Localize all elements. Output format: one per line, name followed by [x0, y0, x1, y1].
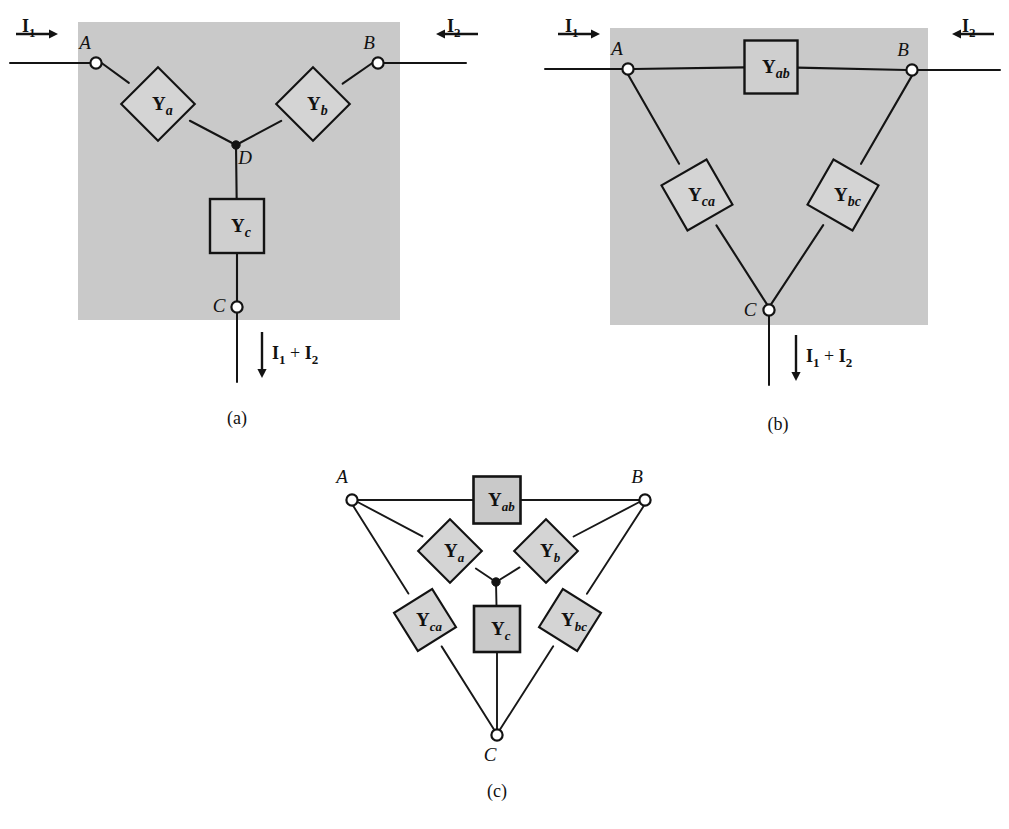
panel-caption-c: (c): [487, 781, 507, 802]
component-subscript: b: [554, 550, 561, 565]
current-arrow-i2-head: [436, 29, 445, 38]
component-subscript: ca: [702, 194, 715, 209]
current-arrow-i2-head: [952, 29, 961, 38]
branch-ad-c-seg1: [358, 502, 423, 536]
current-arrow-i1-plus-i2-head: [257, 369, 266, 378]
component-subscript: ab: [776, 66, 790, 81]
node-label-a: A: [77, 32, 91, 53]
node-label-c: C: [213, 295, 226, 316]
current-subscript: 1: [29, 25, 36, 40]
branch-bd-c-seg1: [574, 502, 640, 537]
component-subscript: c: [505, 628, 511, 643]
component-subscript: ab: [502, 499, 516, 514]
branch-ca-c-seg1: [353, 506, 408, 594]
current-label-i1-plus-i2: I1 + I2: [272, 343, 318, 367]
current-label-i2: I2: [447, 16, 461, 40]
current-arrow-i1-plus-i2-head: [791, 372, 800, 381]
component-subscript: c: [245, 225, 252, 240]
plus-sign: +: [286, 343, 305, 363]
component-subscript: ca: [430, 619, 443, 634]
terminal-node-b[interactable]: [372, 57, 383, 68]
node-label-c: C: [484, 744, 497, 765]
terminal-node-c[interactable]: [231, 301, 242, 312]
branch-dc-seg1: [236, 145, 237, 199]
terminal-node-b[interactable]: [639, 494, 650, 505]
terminal-node-a[interactable]: [346, 494, 357, 505]
current-symbol-2: I: [305, 343, 312, 363]
component-subscript: bc: [575, 619, 588, 634]
panel-caption-a: (a): [227, 408, 247, 429]
current-arrow-i1-head: [49, 29, 58, 38]
component-subscript: a: [458, 550, 465, 565]
terminal-node-b[interactable]: [906, 64, 917, 75]
current-label-i1: I1: [565, 16, 579, 40]
current-symbol-2: I: [839, 346, 846, 366]
panel-background-a: [78, 22, 400, 320]
current-subscript: 1: [572, 25, 579, 40]
panel-b: YabYcaYbcABCI1I2I1 + I2(b): [545, 16, 1000, 435]
current-subscript: 2: [454, 25, 461, 40]
node-label-b: B: [363, 32, 375, 53]
terminal-node-a[interactable]: [622, 63, 633, 74]
node-label-a: A: [609, 38, 623, 59]
current-subscript: 2: [969, 25, 976, 40]
current-arrow-i1-head: [591, 29, 600, 38]
current-subscript-2: 2: [846, 355, 853, 370]
node-label-d: D: [237, 147, 252, 168]
figure-root: YaYbYcABCDI1I2I1 + I2(a)YabYcaYbcABCI1I2…: [0, 0, 1009, 829]
node-label-a: A: [334, 466, 348, 487]
terminal-node-a[interactable]: [90, 57, 101, 68]
components-c: YabYaYbYcaYcYbc: [394, 477, 601, 653]
panel-c: YabYaYbYcaYcYbcABC(c): [334, 466, 650, 802]
component-subscript: a: [166, 103, 173, 118]
plus-sign: +: [820, 346, 839, 366]
component-subscript: bc: [848, 194, 862, 209]
component-subscript: b: [321, 103, 328, 118]
panel-a: YaYbYcABCDI1I2I1 + I2(a): [10, 16, 478, 429]
current-label-i1: I1: [22, 16, 36, 40]
current-subscript-2: 2: [312, 352, 319, 367]
node-label-b: B: [897, 39, 909, 60]
node-label-c: C: [744, 299, 757, 320]
branch-bc-c-seg1: [587, 506, 644, 594]
terminal-node-c[interactable]: [491, 729, 502, 740]
current-label-i1-plus-i2: I1 + I2: [806, 346, 852, 370]
branch-ca-c-seg2: [442, 646, 494, 729]
junction-node-d: [492, 578, 500, 586]
circuit-figure: YaYbYcABCDI1I2I1 + I2(a)YabYcaYbcABCI1I2…: [0, 0, 1009, 829]
terminal-node-c[interactable]: [763, 304, 774, 315]
current-label-i2: I2: [962, 16, 976, 40]
node-label-b: B: [631, 466, 643, 487]
panel-caption-b: (b): [768, 414, 789, 435]
branch-bc-c-seg2: [500, 646, 553, 729]
